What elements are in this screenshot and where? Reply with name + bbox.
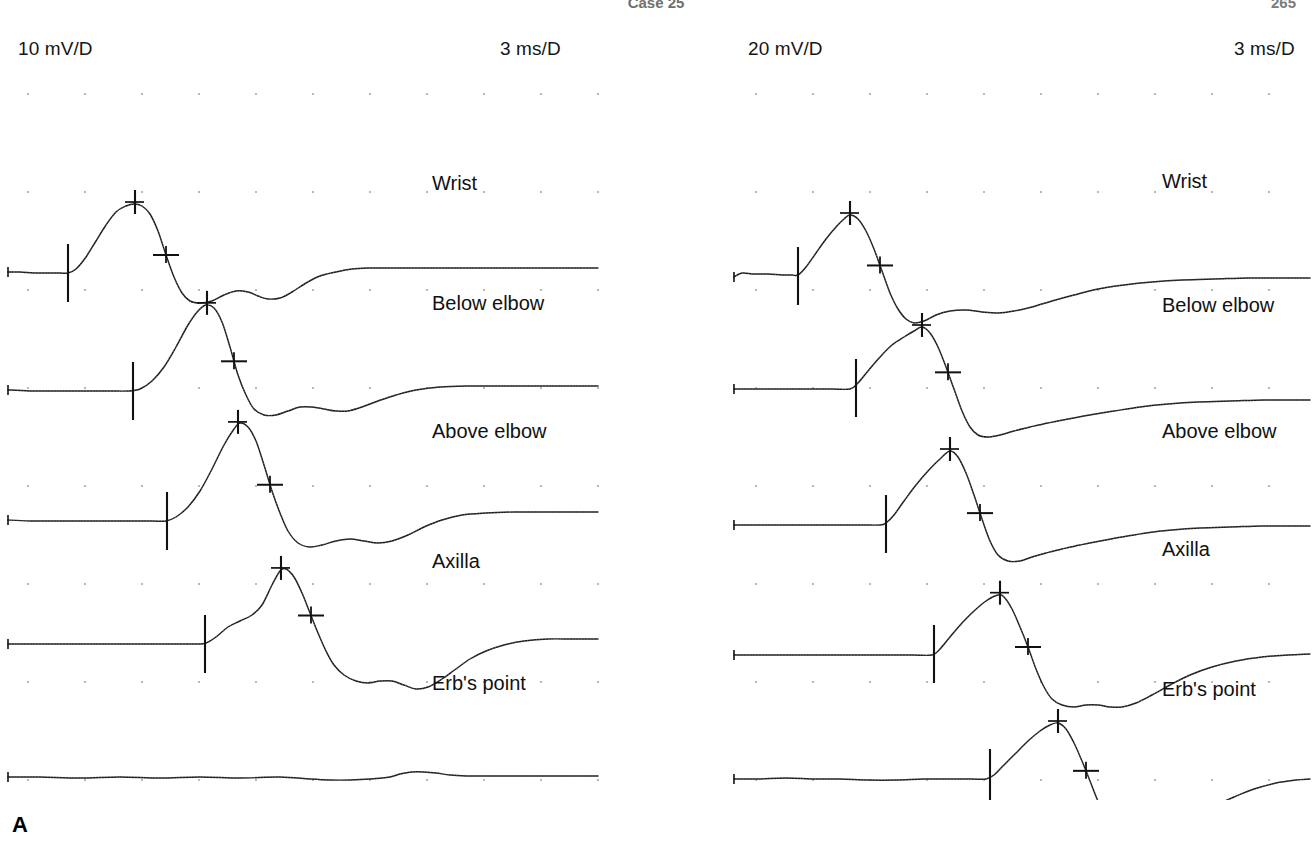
markers-above-elbow bbox=[734, 437, 993, 553]
grid-dot bbox=[255, 583, 257, 585]
grid-dot bbox=[1268, 779, 1270, 781]
grid-dot bbox=[84, 387, 86, 389]
grid-dot bbox=[198, 93, 200, 95]
grid-dot bbox=[84, 289, 86, 291]
grid-dot bbox=[755, 681, 757, 683]
trace-axilla bbox=[8, 568, 598, 689]
grid-dot bbox=[1097, 779, 1099, 781]
grid-dot bbox=[755, 485, 757, 487]
grid-dot bbox=[1097, 583, 1099, 585]
grid-dot bbox=[84, 583, 86, 585]
grid-dot bbox=[141, 93, 143, 95]
grid-dot bbox=[812, 583, 814, 585]
grid-dot bbox=[312, 485, 314, 487]
grid-dot bbox=[755, 583, 757, 585]
grid-dot bbox=[255, 779, 257, 781]
grid-dot bbox=[926, 485, 928, 487]
trace-label-erbs-point-left: Erb's point bbox=[432, 672, 526, 695]
grid-dot bbox=[1268, 485, 1270, 487]
grid-dot bbox=[983, 387, 985, 389]
grid-dot bbox=[1040, 583, 1042, 585]
grid-dot bbox=[483, 779, 485, 781]
grid-dot bbox=[755, 93, 757, 95]
grid-dot bbox=[198, 485, 200, 487]
waveform-path bbox=[734, 723, 1310, 800]
grid-dot bbox=[198, 387, 200, 389]
grid-dot bbox=[1211, 93, 1213, 95]
waveform-path bbox=[8, 204, 598, 303]
grid-dot bbox=[84, 779, 86, 781]
grid-dot bbox=[540, 681, 542, 683]
grid-dot bbox=[312, 191, 314, 193]
grid-dot bbox=[483, 93, 485, 95]
grid-dot bbox=[1097, 387, 1099, 389]
grid-dot bbox=[869, 93, 871, 95]
trace-label-above-elbow-right: Above elbow bbox=[1162, 420, 1277, 443]
grid-dot bbox=[1211, 387, 1213, 389]
grid-dot bbox=[483, 289, 485, 291]
sweep-scale-label-right: 3 ms/D bbox=[1234, 38, 1295, 60]
grid-dot bbox=[483, 583, 485, 585]
grid-dot bbox=[27, 779, 29, 781]
grid-dot bbox=[1097, 191, 1099, 193]
grid-dot bbox=[483, 387, 485, 389]
grid-dot bbox=[812, 485, 814, 487]
grid-dot bbox=[755, 289, 757, 291]
waveform-path bbox=[8, 305, 598, 416]
grid-dot bbox=[1211, 779, 1213, 781]
grid-dot bbox=[369, 583, 371, 585]
grid-dot bbox=[597, 485, 599, 487]
grid-dot bbox=[27, 387, 29, 389]
grid-dot bbox=[27, 583, 29, 585]
grid-dot bbox=[597, 93, 599, 95]
grid-dot bbox=[312, 583, 314, 585]
trace-erb-s-point bbox=[8, 772, 598, 780]
grid-dot bbox=[1040, 387, 1042, 389]
grid-dot bbox=[1211, 485, 1213, 487]
grid-dot bbox=[84, 681, 86, 683]
grid-dot bbox=[141, 681, 143, 683]
grid-dot bbox=[869, 387, 871, 389]
grid-dot bbox=[983, 93, 985, 95]
grid-dot bbox=[426, 779, 428, 781]
grid-dot bbox=[983, 681, 985, 683]
trace-label-axilla-right: Axilla bbox=[1162, 538, 1210, 561]
trace-label-wrist-left: Wrist bbox=[432, 172, 477, 195]
grid-dot bbox=[369, 289, 371, 291]
grid-dot bbox=[869, 191, 871, 193]
grid-dot bbox=[426, 289, 428, 291]
waveform-grain bbox=[8, 568, 598, 689]
trace-label-axilla-left: Axilla bbox=[432, 550, 480, 573]
sweep-scale-label-left: 3 ms/D bbox=[500, 38, 561, 60]
grid-dot bbox=[198, 583, 200, 585]
grid-dot bbox=[926, 191, 928, 193]
grid-dot bbox=[27, 289, 29, 291]
grid-dot bbox=[1268, 191, 1270, 193]
grid-dot bbox=[255, 191, 257, 193]
trace-label-below-elbow-right: Below elbow bbox=[1162, 294, 1274, 317]
grid-dot bbox=[141, 289, 143, 291]
grid-dot bbox=[926, 583, 928, 585]
grid-dot bbox=[1268, 583, 1270, 585]
trace-wrist bbox=[8, 204, 598, 303]
grid-dot bbox=[1154, 681, 1156, 683]
grid-dot bbox=[483, 485, 485, 487]
grid-dot bbox=[141, 191, 143, 193]
grid-dot bbox=[597, 289, 599, 291]
grid-dot bbox=[1154, 779, 1156, 781]
grid-dot bbox=[983, 191, 985, 193]
grid-dot bbox=[869, 681, 871, 683]
grid-dot bbox=[597, 779, 599, 781]
grid-dot bbox=[312, 681, 314, 683]
grid-dot bbox=[983, 583, 985, 585]
grid-dot bbox=[1268, 387, 1270, 389]
grid-dot bbox=[27, 485, 29, 487]
waveform-path bbox=[8, 568, 598, 689]
emg-panel-right: 20 mV/D 3 ms/D Wrist Below elbow Above e… bbox=[656, 0, 1312, 800]
grid-dot bbox=[1211, 191, 1213, 193]
grid-dot bbox=[198, 779, 200, 781]
grid-dot bbox=[426, 191, 428, 193]
grid-dot bbox=[1040, 191, 1042, 193]
grid-dot bbox=[369, 387, 371, 389]
grid-dot bbox=[597, 387, 599, 389]
